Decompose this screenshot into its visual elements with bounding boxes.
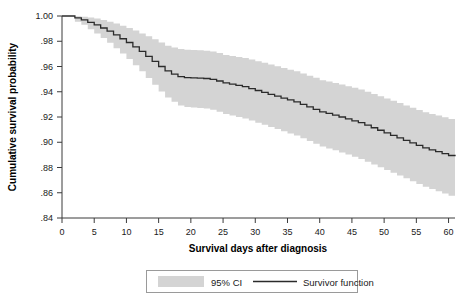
y-tick-label: .96 [40, 62, 53, 72]
y-tick-label: .88 [40, 163, 53, 173]
y-tick-label: .86 [40, 188, 53, 198]
survival-curve-figure: .84.86.88.90.92.94.96.981.00 05101520253… [0, 0, 465, 299]
y-tick-label: 1.00 [35, 11, 53, 21]
legend-swatch-ci [158, 276, 204, 287]
x-tick-label: 5 [92, 227, 97, 237]
y-tick-label: .94 [40, 87, 53, 97]
x-axis-title: Survival days after diagnosis [189, 243, 328, 254]
x-tick-label: 0 [59, 227, 64, 237]
y-tick-label: .84 [40, 213, 53, 223]
x-tick-label: 10 [121, 227, 131, 237]
legend-label-survivor: Survivor function [303, 277, 374, 288]
legend-label-ci: 95% CI [211, 277, 242, 288]
x-tick-label: 30 [250, 227, 260, 237]
chart-legend: 95% CI Survivor function [147, 271, 374, 293]
x-tick-label: 35 [282, 227, 292, 237]
x-tick-label: 20 [186, 227, 196, 237]
x-tick-label: 25 [218, 227, 228, 237]
x-tick-label: 50 [379, 227, 389, 237]
x-tick-label: 55 [411, 227, 421, 237]
y-axis-title: Cumulative survival probability [7, 42, 18, 191]
y-tick-label: .98 [40, 36, 53, 46]
y-tick-label: .92 [40, 112, 53, 122]
x-tick-label: 60 [444, 227, 454, 237]
x-tick-label: 15 [154, 227, 164, 237]
x-tick-label: 40 [315, 227, 325, 237]
y-tick-label: .90 [40, 137, 53, 147]
x-tick-label: 45 [347, 227, 357, 237]
